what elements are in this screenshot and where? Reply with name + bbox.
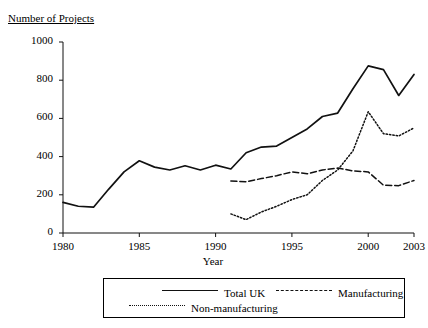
y-tick-label: 1000 — [19, 34, 53, 46]
legend-item-manufacturing: Manufacturing — [276, 286, 403, 299]
legend-label-non-manufacturing: Non-manufacturing — [191, 302, 278, 314]
y-tick-label: 200 — [19, 187, 53, 199]
chart-axes — [63, 42, 414, 233]
y-tick-label: 800 — [19, 72, 53, 84]
x-axis-tickmarks — [63, 233, 414, 237]
series-line-non-manufacturing — [231, 112, 414, 220]
x-tick-label: 1980 — [43, 240, 83, 252]
legend-swatch-dotted-icon — [129, 305, 185, 307]
legend-label-manufacturing: Manufacturing — [338, 287, 403, 299]
y-axis-tickmarks — [59, 42, 63, 233]
chart-series-layer — [63, 66, 414, 220]
legend-swatch-dashed-icon — [276, 290, 332, 292]
x-tick-label: 2000 — [348, 240, 388, 252]
legend-item-total-uk: Total UK — [162, 286, 265, 299]
x-tick-label: 2003 — [394, 240, 428, 252]
y-tick-label: 400 — [19, 149, 53, 161]
y-tick-label: 600 — [19, 110, 53, 122]
series-line-manufacturing — [231, 168, 414, 186]
x-axis-title: Year — [183, 255, 243, 267]
chart-legend: Total UK Manufacturing Non-manufacturing — [103, 278, 405, 318]
x-tick-label: 1990 — [196, 240, 236, 252]
x-tick-label: 1985 — [119, 240, 159, 252]
y-tick-label: 0 — [19, 225, 53, 237]
legend-item-non-manufacturing: Non-manufacturing — [129, 301, 278, 314]
chart-figure: Number of Projects 02004006008001000 198… — [0, 0, 428, 328]
series-line-total-uk — [63, 66, 414, 207]
x-tick-label: 1995 — [272, 240, 312, 252]
legend-label-total-uk: Total UK — [224, 287, 265, 299]
legend-swatch-solid-icon — [162, 290, 218, 292]
